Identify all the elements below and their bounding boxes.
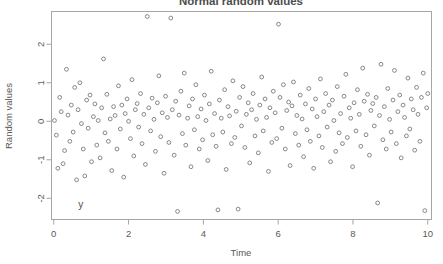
data-point bbox=[218, 98, 222, 102]
data-point bbox=[379, 62, 383, 66]
y-tick-label: -1 bbox=[35, 156, 46, 164]
data-point bbox=[241, 85, 245, 89]
data-point bbox=[403, 116, 407, 120]
data-point bbox=[300, 117, 304, 121]
data-point bbox=[100, 106, 104, 110]
data-point bbox=[194, 83, 198, 87]
data-point bbox=[209, 69, 213, 73]
data-point bbox=[170, 108, 174, 112]
data-point bbox=[204, 119, 208, 123]
y-axis-label: Random values bbox=[3, 83, 14, 149]
data-point bbox=[230, 142, 234, 146]
data-point bbox=[238, 96, 242, 100]
data-point bbox=[228, 114, 232, 118]
x-tick-label: 0 bbox=[51, 228, 56, 239]
data-point bbox=[140, 142, 144, 146]
data-point bbox=[65, 67, 69, 71]
data-point bbox=[325, 125, 329, 129]
data-point bbox=[359, 144, 363, 148]
data-point bbox=[147, 106, 151, 110]
data-point bbox=[337, 131, 341, 135]
data-point bbox=[224, 168, 228, 172]
data-point bbox=[393, 69, 397, 73]
y-tick-label: 1 bbox=[35, 80, 46, 85]
data-point bbox=[76, 108, 80, 112]
data-point bbox=[244, 112, 248, 116]
data-point bbox=[388, 117, 392, 121]
data-point bbox=[122, 175, 126, 179]
data-point bbox=[90, 160, 94, 164]
data-point bbox=[314, 97, 318, 101]
data-point bbox=[145, 15, 149, 19]
data-point bbox=[267, 169, 271, 173]
data-point bbox=[75, 178, 79, 182]
data-point bbox=[135, 102, 139, 106]
data-point bbox=[115, 147, 119, 151]
data-point bbox=[157, 74, 161, 78]
data-point bbox=[250, 108, 254, 112]
data-point bbox=[426, 92, 430, 96]
data-point bbox=[415, 85, 419, 89]
data-point bbox=[292, 80, 296, 84]
data-point bbox=[357, 112, 361, 116]
x-tick-label: 8 bbox=[350, 228, 355, 239]
data-point bbox=[69, 103, 73, 107]
data-point bbox=[176, 210, 180, 214]
data-point bbox=[186, 116, 190, 120]
data-point bbox=[378, 114, 382, 118]
data-point bbox=[418, 139, 422, 143]
data-point bbox=[317, 134, 321, 138]
x-tick-label: 4 bbox=[201, 228, 206, 239]
data-point bbox=[167, 141, 171, 145]
data-point bbox=[339, 112, 343, 116]
data-point bbox=[83, 174, 87, 178]
data-point bbox=[398, 93, 402, 97]
data-point bbox=[181, 132, 185, 136]
data-point bbox=[86, 126, 90, 130]
data-point bbox=[386, 87, 390, 91]
data-point bbox=[160, 111, 164, 115]
data-point bbox=[364, 133, 368, 137]
data-point bbox=[263, 97, 267, 101]
data-point bbox=[401, 103, 405, 107]
data-point bbox=[113, 114, 117, 118]
data-point bbox=[298, 93, 302, 97]
data-point bbox=[413, 148, 417, 152]
data-point bbox=[265, 116, 269, 120]
data-point bbox=[352, 101, 356, 105]
data-point bbox=[246, 101, 250, 105]
data-point bbox=[258, 103, 262, 107]
data-point bbox=[330, 98, 334, 102]
data-point bbox=[372, 124, 376, 128]
data-point bbox=[182, 71, 186, 75]
data-point bbox=[396, 110, 400, 114]
data-point bbox=[371, 102, 375, 106]
x-axis-label: Time bbox=[231, 247, 252, 258]
data-point bbox=[102, 57, 106, 61]
y-tick-label: -2 bbox=[35, 194, 46, 202]
data-point bbox=[278, 96, 282, 100]
data-point bbox=[66, 113, 70, 117]
data-point bbox=[211, 133, 215, 137]
data-point bbox=[192, 128, 196, 132]
data-point bbox=[361, 66, 365, 70]
data-point bbox=[106, 139, 110, 143]
y-axis: -2-1012 bbox=[35, 42, 52, 203]
data-point bbox=[341, 142, 345, 146]
data-point bbox=[159, 135, 163, 139]
data-point bbox=[368, 153, 372, 157]
data-point bbox=[345, 136, 349, 140]
data-point bbox=[110, 169, 114, 173]
data-point bbox=[416, 112, 420, 116]
data-point bbox=[133, 108, 137, 112]
data-point bbox=[253, 134, 257, 138]
data-point bbox=[288, 164, 292, 168]
data-point bbox=[308, 139, 312, 143]
data-point bbox=[273, 111, 277, 115]
data-point bbox=[423, 209, 427, 213]
data-point bbox=[203, 93, 207, 97]
data-point bbox=[132, 154, 136, 158]
data-point bbox=[58, 96, 62, 100]
data-point bbox=[319, 77, 323, 81]
data-point bbox=[118, 127, 122, 131]
